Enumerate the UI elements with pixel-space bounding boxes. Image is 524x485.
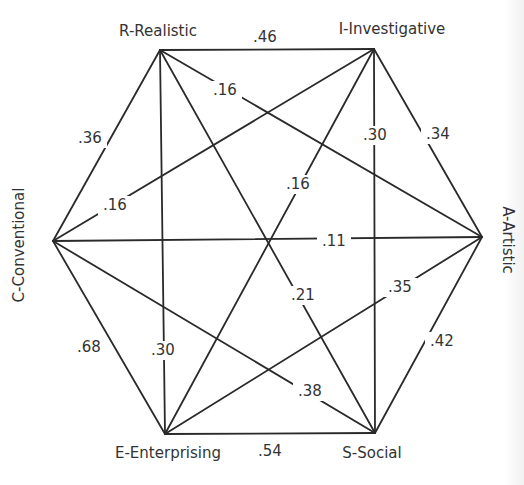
edge-weight-r-e: .30 [146,341,180,360]
node-label-e: E-Enterprising [115,444,221,462]
node-label-a: A-Artistic [499,206,517,274]
edge-r-i [160,49,374,50]
edge-r-e [160,50,165,434]
edge-weight-a-e: .35 [383,278,417,297]
edge-weight-r-s: .21 [286,286,320,305]
weight-value: .21 [291,286,315,304]
weight-value: .42 [430,332,454,350]
node-label-r: R-Realistic [119,22,197,40]
edge-weight-r-a: .16 [208,81,242,100]
node-label-c: C-Conventional [10,188,28,303]
weight-value: .36 [78,129,102,147]
edge-weight-labels: .46.34.42.54.68.36.16.21.30.16.30.16.11.… [72,28,459,460]
weight-value: .30 [363,126,387,144]
weight-value: .16 [286,175,310,193]
edge-weight-c-s: .38 [293,382,327,401]
weight-value: .35 [388,278,412,296]
edges-layer [53,49,482,434]
riasec-hexagon-diagram: .46.34.42.54.68.36.16.21.30.16.30.16.11.… [0,0,524,485]
weight-value: .34 [426,125,450,143]
edge-e-c [53,241,165,434]
weight-value: .30 [151,341,175,359]
edge-weight-i-e: .16 [281,175,315,194]
node-label-i: I-Investigative [339,20,446,38]
weight-value: .11 [322,232,346,250]
edge-weight-i-a: .34 [421,125,455,144]
weight-value: .16 [213,81,237,99]
edge-s-e [165,433,375,434]
edge-weight-r-i: .46 [253,28,277,46]
edge-weight-i-s: .30 [358,126,392,145]
weight-value: .16 [103,196,127,214]
weight-value: .46 [253,28,277,46]
edge-weight-c-a: .11 [317,232,351,251]
weight-value: .68 [77,338,101,356]
node-label-s: S-Social [342,444,401,462]
edge-weight-c-r: .36 [73,129,107,148]
edge-i-s [374,49,375,433]
edge-weight-i-c: .16 [98,196,132,215]
weight-value: .54 [258,442,282,460]
edge-weight-s-e: .54 [258,442,282,460]
edge-weight-a-s: .42 [425,332,459,351]
edge-weight-e-c: .68 [72,338,106,357]
weight-value: .38 [298,382,322,400]
